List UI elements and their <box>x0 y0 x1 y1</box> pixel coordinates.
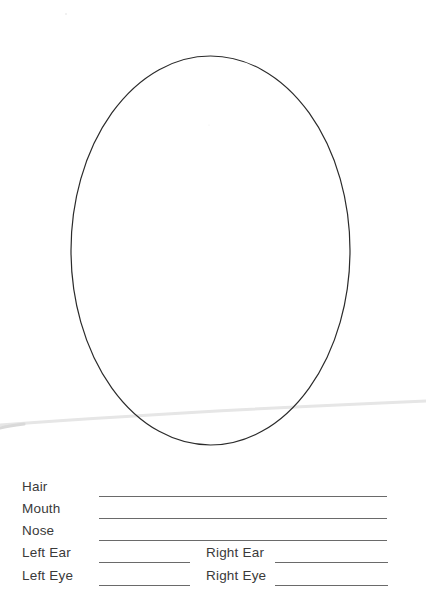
face-outline-oval[interactable] <box>71 56 350 445</box>
form-row-ears: Left Ear Right Ear <box>0 545 426 567</box>
form-row-eyes: Left Eye Right Eye <box>0 568 426 590</box>
right-ear-label: Right Ear <box>206 545 264 561</box>
form-row-mouth: Mouth <box>0 501 426 523</box>
left-ear-answer-line[interactable] <box>99 562 190 563</box>
hair-answer-line[interactable] <box>99 496 387 497</box>
left-ear-label: Left Ear <box>22 545 71 561</box>
paper-speck <box>208 124 209 125</box>
right-eye-label: Right Eye <box>206 568 266 584</box>
nose-label: Nose <box>22 523 54 539</box>
paper-speck <box>65 13 67 15</box>
nose-answer-line[interactable] <box>99 540 387 541</box>
form-row-nose: Nose <box>0 523 426 545</box>
mouth-label: Mouth <box>22 501 61 517</box>
right-ear-answer-line[interactable] <box>275 562 388 563</box>
form-row-hair: Hair <box>0 479 426 501</box>
left-eye-label: Left Eye <box>22 568 73 584</box>
left-eye-answer-line[interactable] <box>99 585 190 586</box>
hair-label: Hair <box>22 479 48 495</box>
paper-crease <box>0 401 426 425</box>
right-eye-answer-line[interactable] <box>275 585 388 586</box>
mouth-answer-line[interactable] <box>99 518 387 519</box>
